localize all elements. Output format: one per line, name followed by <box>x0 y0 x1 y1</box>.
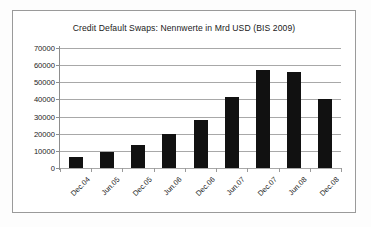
y-tick-mark <box>56 99 60 100</box>
x-tick-mark <box>122 168 123 172</box>
x-tick-mark <box>247 168 248 172</box>
y-tick-label: 0 <box>51 164 55 173</box>
y-tick-mark <box>56 65 60 66</box>
gridline <box>60 48 341 49</box>
plot-area: 700006000050000400003000020000100000 Dec… <box>60 48 341 168</box>
y-tick-label: 60000 <box>34 61 55 70</box>
x-tick-label: Dec.07 <box>256 175 279 198</box>
chart-frame: Credit Default Swaps: Nennwerte in Mrd U… <box>12 10 356 213</box>
x-tick-mark <box>185 168 186 172</box>
x-tick-label: Dec.06 <box>193 175 216 198</box>
x-tick-mark <box>279 168 280 172</box>
bar <box>194 120 208 168</box>
y-tick-label: 10000 <box>34 146 55 155</box>
x-tick-label: Dec.05 <box>131 175 154 198</box>
x-tick-mark <box>60 168 61 172</box>
bar <box>131 145 145 168</box>
chart-title: Credit Default Swaps: Nennwerte in Mrd U… <box>13 23 355 33</box>
gridline <box>60 168 341 169</box>
x-tick-mark <box>91 168 92 172</box>
y-tick-mark <box>56 48 60 49</box>
y-tick-mark <box>56 117 60 118</box>
y-tick-label: 50000 <box>34 78 55 87</box>
x-tick-label: Dec.04 <box>68 175 91 198</box>
x-tick-label: Jun.08 <box>287 175 309 197</box>
bar <box>256 70 270 168</box>
y-tick-mark <box>56 82 60 83</box>
bar <box>287 72 301 168</box>
y-tick-label: 30000 <box>34 112 55 121</box>
x-tick-label: Dec.08 <box>318 175 341 198</box>
bar <box>225 97 239 168</box>
x-tick-mark <box>310 168 311 172</box>
x-tick-mark <box>216 168 217 172</box>
gridline <box>60 65 341 66</box>
bar <box>318 99 332 168</box>
chart-figure: Credit Default Swaps: Nennwerte in Mrd U… <box>0 0 371 227</box>
bar <box>100 152 114 168</box>
y-tick-label: 70000 <box>34 44 55 53</box>
bar <box>162 134 176 168</box>
y-tick-mark <box>56 151 60 152</box>
x-tick-label: Jun.07 <box>224 175 246 197</box>
x-tick-label: Jun.05 <box>99 175 121 197</box>
x-tick-label: Jun.06 <box>162 175 184 197</box>
y-tick-label: 20000 <box>34 129 55 138</box>
x-tick-mark <box>341 168 342 172</box>
x-tick-mark <box>154 168 155 172</box>
y-tick-mark <box>56 134 60 135</box>
y-tick-label: 40000 <box>34 95 55 104</box>
bar <box>69 157 83 168</box>
